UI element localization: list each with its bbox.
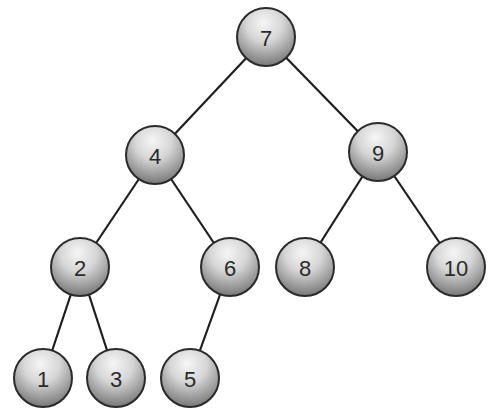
node-label: 3 (110, 367, 122, 392)
tree-node-10: 10 (427, 238, 485, 296)
tree-node-5: 5 (161, 349, 219, 407)
node-label: 10 (444, 256, 468, 281)
node-label: 8 (299, 256, 311, 281)
node-label: 9 (372, 141, 384, 166)
node-label: 2 (74, 256, 86, 281)
node-label: 1 (37, 367, 49, 392)
tree-svg: 74926810135 (0, 0, 492, 418)
tree-node-1: 1 (14, 349, 72, 407)
tree-node-6: 6 (201, 238, 259, 296)
node-label: 7 (260, 26, 272, 51)
node-label: 5 (184, 367, 196, 392)
tree-node-2: 2 (51, 238, 109, 296)
edges-layer (43, 37, 456, 378)
tree-node-8: 8 (276, 238, 334, 296)
tree-node-9: 9 (349, 123, 407, 181)
tree-diagram: 74926810135 (0, 0, 492, 418)
node-label: 4 (149, 144, 161, 169)
node-label: 6 (224, 256, 236, 281)
tree-node-3: 3 (87, 349, 145, 407)
tree-node-7: 7 (237, 8, 295, 66)
tree-node-4: 4 (126, 126, 184, 184)
